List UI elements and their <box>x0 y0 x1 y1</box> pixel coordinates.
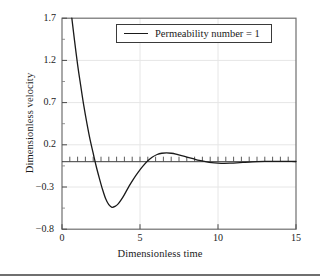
x-axis-title: Dimensionless time <box>0 248 320 259</box>
plot-frame <box>62 18 296 229</box>
chart-legend: Permeability number = 1 <box>116 24 272 43</box>
x-tick-label-3: 10 <box>198 232 238 243</box>
data-series-curve <box>72 18 296 207</box>
x-tick-label-4: 15 <box>276 232 316 243</box>
figure-container: 1.7 1.2 0.7 0.2 −0.3 −0.8 0 5 10 15 Dime… <box>0 0 320 279</box>
y-axis-title-wrapper: Dimensionless velocity <box>19 33 37 213</box>
x-axis-ticks <box>62 224 296 229</box>
legend-line-swatch <box>124 33 148 34</box>
y-tick-label-1: 1.7 <box>16 12 56 23</box>
grid-vertical <box>140 18 218 229</box>
x-tick-label-2: 5 <box>120 232 160 243</box>
page-bottom-rule <box>0 274 320 276</box>
y-axis-title: Dimensionless velocity <box>24 73 35 173</box>
legend-label: Permeability number = 1 <box>155 28 260 39</box>
x-tick-label-1: 0 <box>42 232 82 243</box>
